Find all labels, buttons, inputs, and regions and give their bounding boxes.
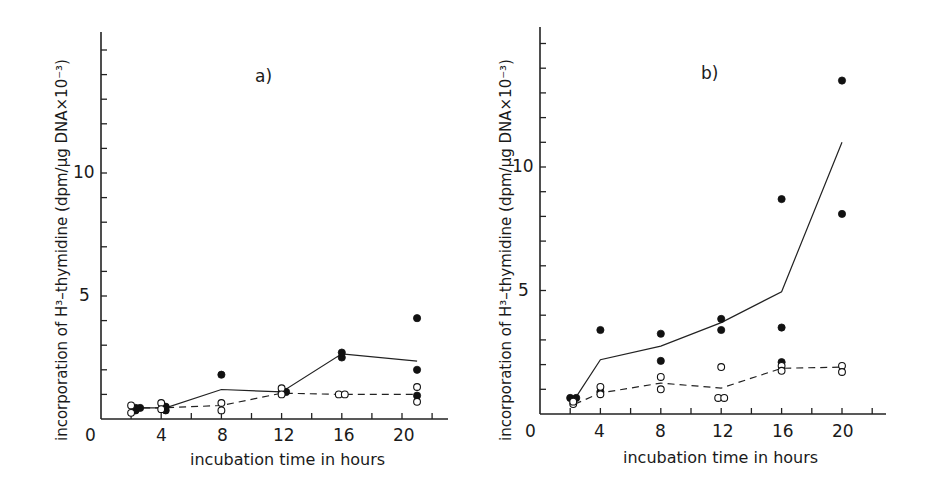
panel-b-chart (540, 27, 886, 414)
filled-data-point (413, 315, 420, 322)
filled-data-point (137, 404, 144, 411)
open-data-point (778, 367, 785, 374)
filled-data-point (657, 357, 664, 364)
panel-a-xtick-12: 12 (273, 425, 295, 445)
panel-b-yaxis-title: incorporation of H³–thymidine (dpm/µg DN… (497, 59, 515, 441)
panel-a-chart (101, 32, 448, 419)
filled-data-point (338, 349, 345, 356)
panel-a-xaxis-title: incubation time in hours (190, 450, 385, 469)
panel-a-ytick-5: 5 (79, 285, 90, 305)
open-data-point (218, 400, 225, 407)
chart-canvas (0, 0, 926, 493)
panel-a-xtick-20: 20 (393, 425, 415, 445)
filled-data-point (718, 315, 725, 322)
open-data-point (278, 391, 285, 398)
panel-b-ytick-5: 5 (518, 280, 529, 300)
filled-data-point (838, 210, 845, 217)
open-data-point (721, 395, 728, 402)
panel-b-xtick-12: 12 (712, 421, 734, 441)
open-data-point (570, 398, 577, 405)
open-data-point (158, 406, 165, 413)
panel-b-xaxis-title: incubation time in hours (623, 448, 818, 467)
panel-a-xtick-4: 4 (156, 425, 167, 445)
filled-data-point (838, 77, 845, 84)
filled-data-point (657, 330, 664, 337)
filled-data-point (413, 366, 420, 373)
panel-a-xtick-16: 16 (333, 425, 355, 445)
mean-line-open (575, 367, 842, 404)
open-data-point (657, 374, 664, 381)
panel-b-xtick-16: 16 (772, 421, 794, 441)
panel-a-yaxis-title: incorporation of H³–thymidine (dpm/µg DN… (53, 59, 71, 441)
mean-line-filled (575, 142, 842, 399)
open-data-point (128, 409, 135, 416)
panel-b-xtick-4: 4 (594, 421, 605, 441)
open-data-point (657, 386, 664, 393)
panel-b-origin-label: 0 (525, 421, 536, 441)
panel-a-ytick-10: 10 (73, 162, 95, 182)
filled-data-point (597, 326, 604, 333)
open-data-point (839, 369, 846, 376)
open-data-point (341, 391, 348, 398)
open-data-point (218, 407, 225, 414)
panel-b-ytick-10: 10 (512, 156, 534, 176)
open-data-point (414, 384, 421, 391)
panel-a-xtick-8: 8 (217, 425, 228, 445)
open-data-point (597, 383, 604, 390)
filled-data-point (218, 371, 225, 378)
panel-b-xtick-20: 20 (832, 421, 854, 441)
open-data-point (597, 391, 604, 398)
filled-data-point (778, 324, 785, 331)
open-data-point (128, 402, 135, 409)
mean-line-filled (136, 354, 418, 408)
panel-a-origin-label: 0 (85, 425, 96, 445)
panel-b-xtick-8: 8 (655, 421, 666, 441)
panel-a-label: a) (255, 66, 272, 86)
open-data-point (414, 398, 421, 405)
filled-data-point (778, 196, 785, 203)
panel-b-label: b) (701, 63, 718, 83)
filled-data-point (718, 326, 725, 333)
open-data-point (718, 364, 725, 371)
